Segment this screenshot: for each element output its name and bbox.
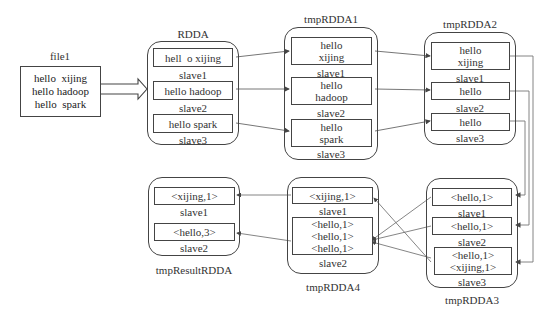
tmprdda1-title: tmpRDDA1 xyxy=(284,13,378,25)
file1-title: file1 xyxy=(20,50,100,62)
tmpresultrdda-title: tmpResultRDDA xyxy=(140,264,248,276)
tmprdda4-group: <xijing,1> slave1 <hello,1> <hello,1> <h… xyxy=(287,177,379,274)
tmprdda4-title: tmpRDDA4 xyxy=(287,281,379,293)
tmpresultrdda-node-1: slave1 xyxy=(149,206,239,218)
tmpresultrdda-node-2: slave2 xyxy=(149,242,239,254)
tmprdda3-partition-1: <hello,1> xyxy=(432,188,512,206)
tmprdda4-partition-2: <hello,1> <hello,1> <hello,1> xyxy=(292,217,373,255)
tmprdda4-partition-1: <xijing,1> xyxy=(292,187,373,204)
tmprdda1-partition-1: hello xijing xyxy=(291,37,372,65)
tmprdda1-group: hello xijing slave1 hello hadoop slave2 … xyxy=(284,27,378,160)
tmprdda2-partition-2: hello xyxy=(431,82,510,100)
tmprdda4-node-2: slave2 xyxy=(288,257,378,269)
tmprdda1-partition-3: hello spark xyxy=(291,119,372,147)
tmprdda1-node-2: slave2 xyxy=(285,107,377,119)
tmprdda2-node-3: slave3 xyxy=(425,132,515,144)
tmprdda3-partition-2: <hello,1> xyxy=(432,217,512,235)
tmprdda1-node-3: slave3 xyxy=(285,148,377,160)
tmpresultrdda-group: <xijing,1> slave1 <hello,3> slave2 xyxy=(148,177,240,256)
rdda-group: hell o xijing slave1 hello hadoop slave2… xyxy=(147,41,239,145)
hollow-arrow-icon xyxy=(101,79,147,99)
rdda-title: RDDA xyxy=(147,28,239,40)
rdda-partition-1: hell o xijing xyxy=(153,48,233,67)
rdda-node-2: slave2 xyxy=(148,102,238,114)
rdda-node-1: slave1 xyxy=(148,69,238,81)
tmprdda3-title: tmpRDDA3 xyxy=(426,294,518,306)
rdda-partition-3: hello spark xyxy=(153,114,233,133)
tmprdda3-node-3: slave3 xyxy=(427,276,517,288)
tmprdda2-partition-1: hello xijing xyxy=(431,42,510,70)
tmpresultrdda-partition-1: <xijing,1> xyxy=(154,187,235,205)
tmprdda1-partition-2: hello hadoop xyxy=(291,77,372,105)
tmpresultrdda-partition-2: <hello,3> xyxy=(154,223,235,241)
rdda-partition-2: hello hadoop xyxy=(153,81,233,100)
rdda-node-3: slave3 xyxy=(148,134,238,146)
tmprdda2-partition-3: hello xyxy=(431,113,510,131)
tmprdda4-node-1: slave1 xyxy=(288,205,378,217)
file1-box: hello xijing hello hadoop hello spark xyxy=(20,66,101,117)
tmprdda2-group: hello xijing slave1 hello slave2 hello s… xyxy=(424,32,516,145)
tmprdda3-partition-3: <hello,1> <xijing,1> xyxy=(434,247,512,275)
tmprdda3-group: <hello,1> slave1 <hello,1> slave2 <hello… xyxy=(426,178,518,288)
tmprdda2-title: tmpRDDA2 xyxy=(424,18,516,30)
